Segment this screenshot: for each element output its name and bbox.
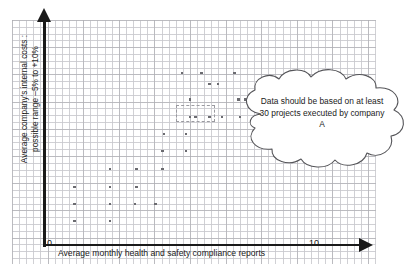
chart-screenshot: Average company's internal costs : possi… (0, 0, 414, 277)
data-point (200, 72, 203, 74)
data-point (134, 203, 137, 205)
data-point (163, 133, 166, 135)
data-point (217, 83, 220, 85)
x-axis-tick-max: 10 (309, 238, 319, 248)
x-axis-title: Average monthly health and safety compli… (58, 248, 265, 258)
data-point (221, 116, 224, 118)
data-point (109, 168, 112, 170)
x-axis-tick-zero: 0 (47, 238, 52, 248)
data-point (181, 72, 184, 74)
data-point (109, 220, 112, 222)
y-axis-line (43, 18, 46, 247)
data-point (135, 168, 138, 170)
data-point (73, 220, 76, 222)
data-point (109, 203, 112, 205)
data-point (73, 203, 76, 205)
data-point (189, 98, 192, 100)
selection-rectangle[interactable] (176, 105, 215, 122)
data-point (208, 83, 211, 85)
grid-mask-bottom (0, 264, 414, 277)
data-point (185, 150, 188, 152)
data-point (73, 186, 76, 188)
data-point (161, 168, 164, 170)
cloud-callout-text: Data should be based on at least 30 proj… (259, 96, 385, 131)
data-point (135, 186, 138, 188)
cloud-callout[interactable]: Data should be based on at least 30 proj… (231, 68, 411, 170)
data-point (185, 133, 188, 135)
data-point (161, 150, 164, 152)
data-point (154, 203, 157, 205)
y-axis-title: Average company's internal costs : possi… (19, 0, 41, 199)
x-axis-arrowhead-icon (359, 238, 373, 252)
data-point (109, 186, 112, 188)
